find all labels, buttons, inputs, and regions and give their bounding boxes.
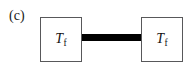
connector-bar: [81, 34, 142, 41]
figure-panel: (c) Tf Tf: [0, 0, 192, 70]
node-box-right: Tf: [141, 17, 183, 62]
node-box-left: Tf: [40, 17, 82, 62]
node-symbol-right: T: [156, 31, 164, 46]
node-label-left: Tf: [55, 32, 66, 48]
node-label-right: Tf: [156, 32, 167, 48]
node-subscript-left: f: [64, 38, 67, 48]
node-subscript-right: f: [165, 38, 168, 48]
node-symbol-left: T: [55, 31, 63, 46]
panel-label: (c): [9, 8, 25, 24]
